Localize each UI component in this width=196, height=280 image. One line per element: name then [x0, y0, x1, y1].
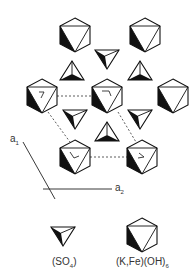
octahedron [60, 140, 90, 174]
legend-label-so4: (SO4) [52, 256, 76, 269]
tetrahedron-down [95, 50, 119, 69]
tetrahedron-down [63, 110, 87, 129]
octahedra-group [27, 18, 188, 174]
tetrahedron-down [128, 110, 152, 129]
axis-a1-label: a1 [10, 133, 19, 146]
axis-a1-line [23, 142, 55, 199]
axis-a2-label: a2 [115, 182, 124, 195]
tetrahedron-up [128, 61, 152, 80]
tetrahedron-up [60, 61, 84, 80]
legend-octahedron-symbol [127, 218, 157, 252]
legend-label-kfeoh6: (K,Fe)(OH)6 [116, 256, 169, 269]
tetrahedron-up [95, 122, 119, 141]
crystal-structure-diagram [0, 0, 196, 280]
octahedron [60, 18, 90, 52]
legend-tetrahedron-symbol [51, 227, 75, 246]
octahedron [158, 79, 188, 113]
octahedron [92, 79, 122, 113]
octahedron [130, 18, 160, 52]
